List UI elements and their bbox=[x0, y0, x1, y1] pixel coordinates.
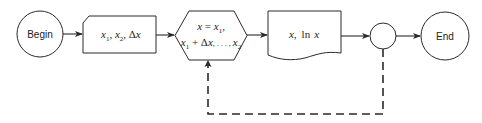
input-node: x1, x2, Δx bbox=[83, 16, 156, 53]
end-label: End bbox=[436, 31, 454, 42]
end-node: End bbox=[421, 12, 469, 60]
begin-label: Begin bbox=[27, 29, 53, 40]
loop-node: x = x1, x1 + Δx, . . . , x2 bbox=[175, 11, 247, 60]
connector-circle bbox=[370, 23, 396, 49]
output-node: x,lnx bbox=[268, 11, 341, 60]
output-label: x,lnx bbox=[288, 28, 319, 40]
flowchart-canvas: Begin x1, x2, Δx x = x1, x1 + Δx, . . . … bbox=[0, 0, 482, 123]
begin-node: Begin bbox=[17, 11, 63, 57]
